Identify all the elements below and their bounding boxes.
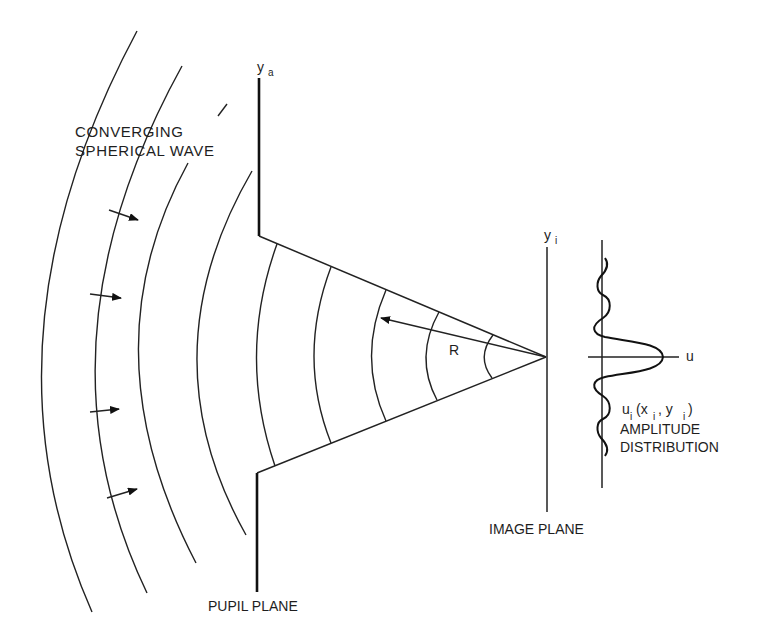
- amplitude-axis-label: u: [686, 348, 694, 364]
- inner-wavefront-5: [484, 335, 493, 378]
- amplitude-label-line2: DISTRIBUTION: [620, 439, 719, 455]
- pupil-axis-label: y: [257, 59, 264, 75]
- inner-wavefront-1: [256, 244, 277, 466]
- propagation-arrows: [90, 210, 138, 498]
- optics-diagram: CONVERGING SPHERICAL WAVE y a y i R u u …: [0, 0, 767, 640]
- wave-label-line1: CONVERGING: [75, 123, 184, 140]
- amp-func-close: ): [688, 401, 693, 417]
- arrow-icon: [109, 210, 138, 220]
- wavefront-arc-3b: [138, 163, 196, 563]
- arrow-icon: [90, 294, 121, 298]
- cone-edge-lower: [257, 357, 546, 473]
- outer-wavefronts: [41, 31, 256, 612]
- wavefront-arc-3a: [218, 104, 227, 116]
- wavefront-arc-1: [41, 31, 137, 612]
- amp-func-sep: , y: [658, 401, 673, 417]
- amp-func-open: (x: [636, 401, 648, 417]
- amplitude-function-label: u i (x i , y i ): [622, 401, 693, 422]
- amp-func-u: u: [622, 401, 630, 417]
- amplitude-label-line1: AMPLITUDE: [620, 421, 700, 437]
- pupil-axis-subscript: a: [268, 67, 274, 78]
- wave-label-line2: SPHERICAL WAVE: [75, 142, 215, 159]
- converging-cone: [256, 236, 546, 473]
- image-axis-label: y: [544, 227, 551, 243]
- inner-wavefront-4: [426, 312, 439, 400]
- inner-wavefront-3: [372, 290, 387, 421]
- pupil-plane-label: PUPIL PLANE: [208, 598, 298, 614]
- arrow-icon: [90, 409, 119, 412]
- radius-label: R: [449, 342, 459, 358]
- image-axis-subscript: i: [555, 235, 557, 246]
- cone-edge-upper: [259, 236, 546, 357]
- radius-arrow: [381, 318, 546, 357]
- arrow-icon: [107, 489, 137, 498]
- inner-wavefront-2: [314, 267, 331, 443]
- wavefront-arc-4: [197, 171, 252, 535]
- image-plane-label: IMAGE PLANE: [489, 521, 584, 537]
